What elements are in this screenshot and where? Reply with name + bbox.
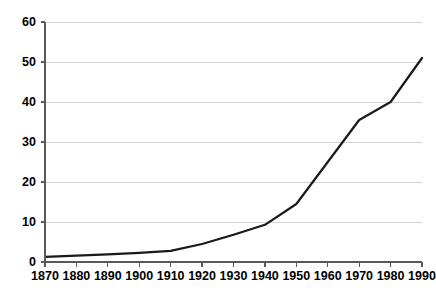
x-tick-label: 1960 bbox=[314, 269, 342, 283]
x-tick-label: 1890 bbox=[94, 269, 122, 283]
x-tick-label: 1940 bbox=[251, 269, 279, 283]
x-tick-label: 1880 bbox=[63, 269, 91, 283]
x-tick-label: 1930 bbox=[220, 269, 248, 283]
x-tick-label: 1950 bbox=[282, 269, 310, 283]
x-tick-label: 1910 bbox=[157, 269, 185, 283]
y-tick-label: 40 bbox=[22, 95, 36, 109]
y-tick-label: 0 bbox=[29, 255, 36, 269]
chart-background bbox=[0, 0, 436, 296]
line-chart: 0102030405060 18701880189019001910192019… bbox=[0, 0, 436, 296]
x-tick-label: 1870 bbox=[31, 269, 59, 283]
y-tick-label: 50 bbox=[22, 55, 36, 69]
x-tick-label: 1990 bbox=[408, 269, 436, 283]
x-tick-label: 1980 bbox=[377, 269, 405, 283]
x-tick-label: 1900 bbox=[125, 269, 153, 283]
y-tick-label: 10 bbox=[22, 215, 36, 229]
y-tick-label: 60 bbox=[22, 15, 36, 29]
x-tick-label: 1970 bbox=[345, 269, 373, 283]
y-tick-label: 20 bbox=[22, 175, 36, 189]
chart-canvas: 0102030405060 18701880189019001910192019… bbox=[0, 0, 436, 296]
x-tick-label: 1920 bbox=[188, 269, 216, 283]
y-tick-label: 30 bbox=[22, 135, 36, 149]
